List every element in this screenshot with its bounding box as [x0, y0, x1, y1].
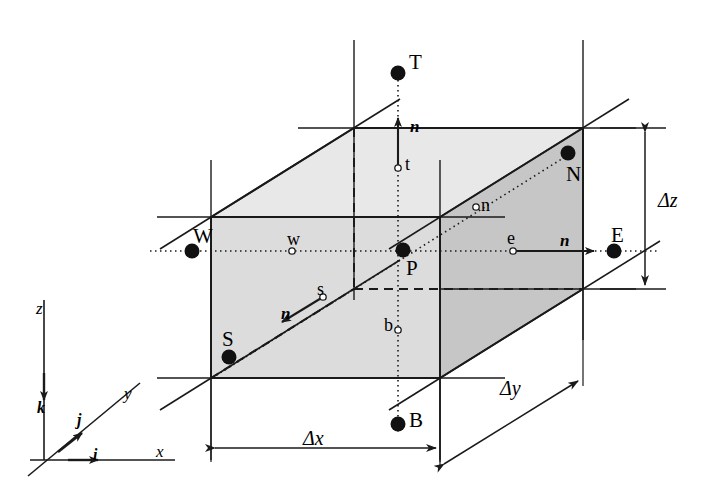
face-label-b: b	[384, 316, 393, 334]
face-dot-t	[395, 165, 401, 171]
node-dot-N	[561, 146, 576, 161]
dimension-label-dz: Δz	[658, 190, 678, 210]
unit-vector-label-j: j	[77, 412, 81, 428]
node-label-B: B	[409, 410, 423, 431]
unit-vector-j	[58, 433, 82, 452]
normal-label-east: n	[560, 232, 569, 249]
face-label-w: w	[287, 230, 300, 248]
node-label-E: E	[611, 225, 624, 246]
axis-label-z: z	[36, 300, 43, 317]
dimension-label-dx: Δx	[303, 428, 324, 448]
node-label-T: T	[409, 52, 422, 73]
face-dot-b	[395, 327, 401, 333]
face-label-t: t	[405, 155, 410, 173]
node-label-P: P	[406, 258, 418, 279]
coordinate-axes	[28, 300, 175, 476]
unit-vectors	[44, 373, 98, 460]
dimension-label-dy: Δy	[500, 378, 521, 398]
normal-label-top: n	[410, 118, 419, 135]
node-label-N: N	[566, 164, 581, 185]
face-label-s: s	[317, 280, 324, 298]
node-dot-S	[222, 350, 237, 365]
node-label-S: S	[222, 329, 234, 350]
face-label-e: e	[507, 229, 515, 247]
unit-vector-label-i: i	[93, 447, 97, 463]
axis-label-y: y	[124, 385, 132, 402]
node-dot-B	[391, 417, 406, 432]
node-dot-T	[391, 66, 406, 81]
node-label-W: W	[193, 226, 213, 247]
unit-vector-label-k: k	[37, 400, 45, 416]
face-dot-n	[473, 204, 479, 210]
face-dot-e	[510, 248, 516, 254]
diagram-canvas	[0, 0, 710, 501]
axis-label-x: x	[156, 443, 164, 460]
normal-label-south: n	[281, 305, 290, 322]
face-label-n: n	[481, 196, 490, 214]
control-volume-diagram: P W E S N T B w e s n t b n n n Δx Δy Δz…	[0, 0, 710, 501]
